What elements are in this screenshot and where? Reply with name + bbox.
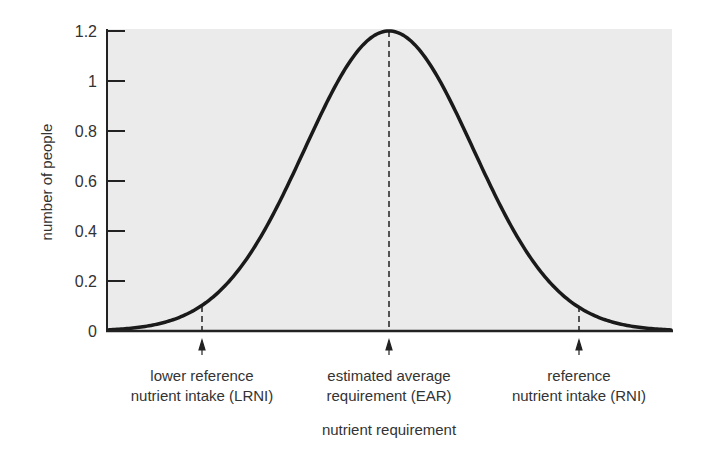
rni-arrow-icon [576,340,582,355]
lrni-label-line2: nutrient intake (LRNI) [131,387,274,404]
y-tick-label: 0 [88,323,97,340]
y-tick-label: 0.6 [75,173,97,190]
y-tick-label: 0.2 [75,273,97,290]
rni-label-line1: reference [547,367,610,384]
y-tick-label: 1 [88,73,97,90]
lrni-arrow-icon [199,340,205,355]
lrni-label-line1: lower reference [150,367,253,384]
x-axis-title: nutrient requirement [322,421,457,438]
y-tick-label: 0.4 [75,223,97,240]
y-axis-title: number of people [38,124,55,241]
y-tick-label: 0.8 [75,123,97,140]
ear-label-line2: requirement (EAR) [326,387,451,404]
rni-label-line2: nutrient intake (RNI) [512,387,646,404]
ear-label-line1: estimated average [327,367,450,384]
chart: 0 0.2 0.4 0.6 0.8 1 1.2 number of people [0,0,704,453]
y-tick-label: 1.2 [75,23,97,40]
y-tick-labels: 0 0.2 0.4 0.6 0.8 1 1.2 [75,23,97,340]
arrows [199,340,582,355]
ear-arrow-icon [386,340,392,355]
